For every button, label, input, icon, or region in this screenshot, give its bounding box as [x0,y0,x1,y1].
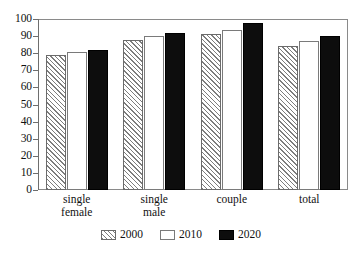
bar-2010-total [299,41,319,190]
y-axis-tick-label: 100 [2,13,32,25]
bar-2000-total [278,46,298,190]
y-axis-labels: 0102030405060708090100 [0,0,32,256]
legend-entry-2010: 2010 [160,229,202,241]
x-axis-group-label: single male [116,193,194,218]
chart-legend: 200020102020 [0,229,362,241]
bar-2010-single-male [144,36,164,190]
x-axis-group-label: couple [193,193,271,206]
bar-2000-couple [201,34,221,190]
y-axis-tick [33,190,38,191]
y-axis-tick-label: 50 [2,99,32,111]
legend-label: 2010 [179,229,202,241]
bar-2020-couple [243,23,263,190]
bar-2020-single-male [165,33,185,190]
bar-2000-single-male [123,40,143,190]
x-axis-labels: single femalesingle malecoupletotal [38,193,348,227]
legend-label: 2020 [238,229,261,241]
y-axis-tick-label: 10 [2,167,32,179]
legend-entry-2020: 2020 [219,229,261,241]
y-axis-tick-label: 70 [2,64,32,76]
x-axis-group-label: total [271,193,349,206]
y-axis-tick-label: 40 [2,116,32,128]
legend-label: 2000 [120,229,143,241]
y-axis-tick-label: 0 [2,184,32,196]
hatched-swatch-icon [101,230,116,240]
bar-2010-single-female [67,52,87,190]
bars-layer [38,19,348,190]
bar-2000-single-female [46,55,66,190]
open-swatch-icon [160,230,175,240]
bar-2020-single-female [88,50,108,190]
bar-2020-total [320,36,340,190]
bar-2010-couple [222,30,242,190]
y-axis-tick-label: 80 [2,47,32,59]
y-axis-tick-label: 90 [2,30,32,42]
legend-entry-2000: 2000 [101,229,143,241]
y-axis-tick-label: 20 [2,150,32,162]
x-axis-group-label: single female [38,193,116,218]
bar-chart: 0102030405060708090100 single femalesing… [0,0,362,256]
y-axis-tick-label: 30 [2,133,32,145]
solid-swatch-icon [219,230,234,240]
y-axis-tick-label: 60 [2,81,32,93]
